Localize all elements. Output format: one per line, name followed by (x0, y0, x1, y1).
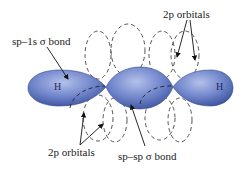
right-h-lobe (173, 70, 233, 106)
sp-sp-sigma-bond-label: sp–sp σ bond (118, 150, 177, 162)
bottom-2p-orbitals-label: 2p orbitals (48, 146, 95, 158)
right-hydrogen-label: H (216, 81, 223, 92)
left-h-lobe (28, 70, 106, 106)
center-sigma-lobe (106, 67, 173, 109)
top-2p-orbitals-label: 2p orbitals (163, 8, 210, 20)
sp-1s-sigma-bond-label: sp–1s σ bond (12, 35, 71, 47)
left-hydrogen-label: H (54, 81, 61, 92)
